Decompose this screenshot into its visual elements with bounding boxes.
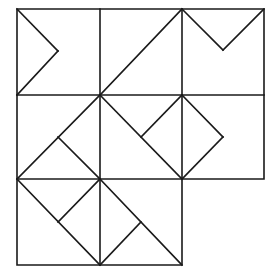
segment-line (141, 95, 182, 137)
cell-r2-c2-diagonal-with-branch (100, 95, 182, 179)
segment-line (100, 222, 141, 265)
segment-line (58, 137, 100, 179)
cell-r2-c1-diagonal-with-branch (17, 95, 100, 179)
segment-line (100, 9, 182, 95)
segment-line (17, 9, 58, 51)
cell-r3-c2-diagonal-with-branch (100, 179, 182, 265)
cell-segments (17, 9, 264, 265)
cell-r1-c2-diagonal (100, 9, 182, 95)
segment-line (182, 9, 223, 50)
segment-line (182, 137, 223, 179)
cell-r2-c3-chevron-right (182, 95, 223, 179)
cell-r3-c1-diagonal-with-branch (17, 179, 100, 265)
cell-r1-c3-chevron-down (182, 9, 264, 50)
puzzle-grid-diagram (0, 0, 276, 280)
cell-r1-c1-chevron-right (17, 9, 58, 95)
segment-line (223, 9, 264, 50)
segment-line (58, 179, 100, 222)
segment-line (182, 95, 223, 137)
segment-line (17, 51, 58, 95)
